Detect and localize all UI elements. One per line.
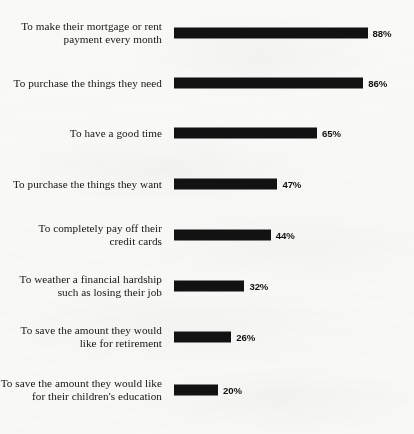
- bar-track: 32%: [168, 269, 414, 303]
- bar-row: To purchase the things they want47%: [0, 167, 414, 201]
- bar-category-label: To make their mortgage or rent payment e…: [0, 20, 168, 45]
- bar: [174, 78, 363, 89]
- bar-track: 65%: [168, 116, 414, 150]
- bar-row: To save the amount they would like for r…: [0, 320, 414, 354]
- bar-category-label: To save the amount they would like for t…: [0, 377, 168, 402]
- bar-value-label: 86%: [368, 78, 387, 89]
- bar-category-label: To have a good time: [0, 127, 168, 140]
- bar-row: To weather a financial hardship such as …: [0, 269, 414, 303]
- bar: [174, 230, 271, 241]
- bar: [174, 128, 317, 139]
- bar-row: To save the amount they would like for t…: [0, 373, 414, 407]
- bar-track: 26%: [168, 320, 414, 354]
- bar-track: 47%: [168, 167, 414, 201]
- bar-category-label: To completely pay off their credit cards: [0, 222, 168, 247]
- bar: [174, 28, 368, 39]
- bar-row: To completely pay off their credit cards…: [0, 218, 414, 252]
- bar-row: To purchase the things they need86%: [0, 66, 414, 100]
- bar-row: To have a good time65%: [0, 116, 414, 150]
- bar: [174, 332, 231, 343]
- bar: [174, 179, 277, 190]
- bar: [174, 281, 244, 292]
- bar-track: 88%: [168, 16, 414, 50]
- bar-value-label: 32%: [249, 281, 268, 292]
- bar-track: 44%: [168, 218, 414, 252]
- bar-value-label: 47%: [282, 179, 301, 190]
- bar-value-label: 44%: [276, 230, 295, 241]
- bar-category-label: To weather a financial hardship such as …: [0, 273, 168, 298]
- bar-value-label: 20%: [223, 385, 242, 396]
- bar-value-label: 88%: [373, 28, 392, 39]
- bar-row: To make their mortgage or rent payment e…: [0, 16, 414, 50]
- bar-category-label: To purchase the things they need: [0, 77, 168, 90]
- chart-title: [0, 0, 414, 7]
- bar-category-label: To save the amount they would like for r…: [0, 324, 168, 349]
- bar: [174, 385, 218, 396]
- bar-track: 20%: [168, 373, 414, 407]
- bar-chart: To make their mortgage or rent payment e…: [0, 0, 414, 434]
- bar-track: 86%: [168, 66, 414, 100]
- bar-category-label: To purchase the things they want: [0, 178, 168, 191]
- bar-value-label: 65%: [322, 128, 341, 139]
- bar-value-label: 26%: [236, 332, 255, 343]
